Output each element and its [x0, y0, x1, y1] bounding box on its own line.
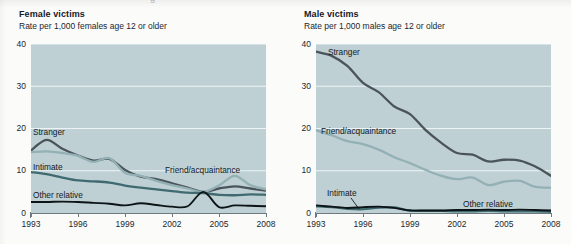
x-tick-mark	[504, 213, 505, 217]
intimate-label: Intimate	[327, 189, 357, 198]
stranger-label: Stranger	[328, 48, 360, 57]
panel-female-victims: Female victims Rate per 1,000 females ag…	[0, 0, 285, 244]
x-tick-mark	[363, 213, 364, 217]
panel-male-victims: Male victims Rate per 1,000 males age 12…	[285, 0, 570, 244]
y-tick-label: 20	[285, 124, 311, 133]
panel-title: Male victims	[304, 9, 359, 19]
intimate-label: Intimate	[33, 163, 63, 172]
x-tick-mark	[31, 213, 32, 217]
friend-acquaintance-label: Friend/acquaintance	[321, 127, 396, 136]
x-tick-mark	[410, 213, 411, 217]
x-tick-mark	[457, 213, 458, 217]
x-axis-baseline	[316, 213, 551, 214]
panel-subtitle: Rate per 1,000 males age 12 or older	[304, 21, 445, 31]
x-tick-label: 1996	[69, 219, 88, 229]
y-tick-label: 10	[0, 166, 26, 175]
friend-acquaintance-label: Friend/acquaintance	[165, 166, 240, 175]
y-tick-label: 0	[285, 209, 311, 218]
x-tick-mark	[78, 213, 79, 217]
x-tick-label: 2008	[542, 219, 561, 229]
stranger-label: Stranger	[33, 128, 65, 137]
x-tick-label: 2002	[448, 219, 467, 229]
x-tick-mark	[266, 213, 267, 217]
x-tick-label: 1993	[307, 219, 326, 229]
x-tick-label: 2005	[495, 219, 514, 229]
y-tick-label: 40	[0, 40, 26, 49]
x-tick-mark	[125, 213, 126, 217]
y-tick-label: 20	[0, 124, 26, 133]
x-tick-mark	[219, 213, 220, 217]
x-tick-label: 1996	[354, 219, 373, 229]
x-tick-label: 2008	[257, 219, 276, 229]
y-tick-label: 0	[0, 209, 26, 218]
y-tick-label: 10	[285, 166, 311, 175]
x-tick-label: 1999	[401, 219, 420, 229]
other-relative-label: Other relative	[463, 200, 513, 209]
line-chart-female	[31, 44, 266, 213]
x-tick-label: 2002	[163, 219, 182, 229]
chart-page: g Female victims Rate per 1,000 females …	[0, 0, 571, 244]
y-tick-label: 40	[285, 40, 311, 49]
x-tick-mark	[551, 213, 552, 217]
plot-area-female	[31, 44, 266, 213]
panel-subtitle: Rate per 1,000 females age 12 or older	[19, 21, 167, 31]
y-tick-label: 30	[285, 82, 311, 91]
x-tick-label: 2005	[210, 219, 229, 229]
y-tick-label: 30	[0, 82, 26, 91]
panel-title: Female victims	[19, 9, 85, 19]
x-axis-baseline	[31, 213, 266, 214]
other-relative-label: Other relative	[33, 191, 83, 200]
x-tick-mark	[172, 213, 173, 217]
x-tick-label: 1993	[22, 219, 41, 229]
x-tick-label: 1999	[116, 219, 135, 229]
x-tick-mark	[316, 213, 317, 217]
